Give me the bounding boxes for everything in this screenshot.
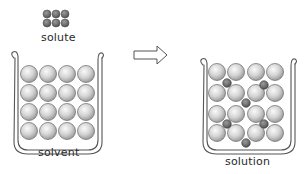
solute-label: solute — [41, 31, 76, 44]
solvent-particle-grid — [21, 66, 95, 140]
solvent-label: solvent — [38, 146, 79, 159]
solute-particle-group — [43, 10, 69, 27]
right-arrow-icon — [134, 46, 167, 64]
solution-label: solution — [225, 155, 270, 168]
